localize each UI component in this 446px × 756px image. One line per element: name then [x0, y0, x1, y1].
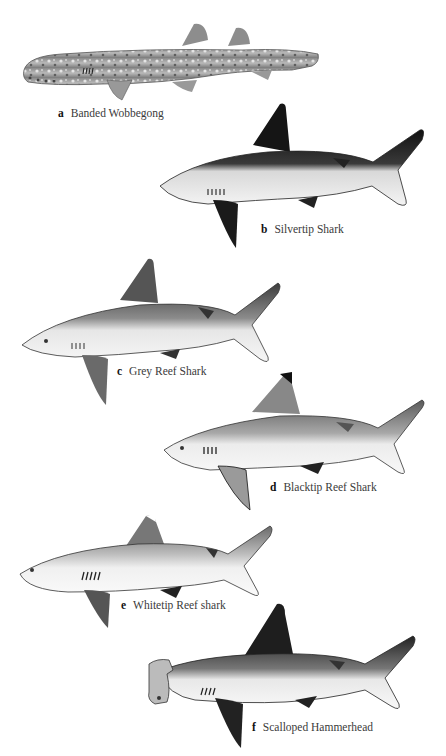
species-caption-d: dBlacktip Reef Shark [270, 482, 377, 494]
species-letter: d [270, 481, 276, 493]
wobbegong-illustration [22, 18, 322, 103]
species-letter: c [117, 365, 122, 377]
species-name: Banded Wobbegong [71, 107, 164, 119]
species-name: Blacktip Reef Shark [283, 481, 376, 493]
shark-identification-plate: aBanded Wobbegong bSilvertip Shark [0, 0, 446, 756]
species-letter: a [58, 107, 64, 119]
species-caption-b: bSilvertip Shark [261, 224, 344, 236]
species-letter: e [121, 599, 126, 611]
species-name: Silvertip Shark [274, 223, 343, 235]
species-letter: f [252, 721, 256, 733]
species-name: Scalloped Hammerhead [263, 721, 373, 733]
species-letter: b [261, 223, 267, 235]
species-caption-f: fScalloped Hammerhead [252, 722, 373, 734]
species-caption-a: aBanded Wobbegong [58, 108, 164, 120]
